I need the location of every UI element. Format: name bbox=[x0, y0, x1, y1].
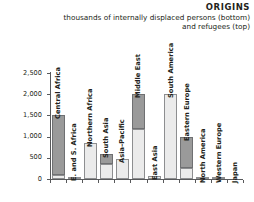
x-axis-category-label: Eastern Europe bbox=[184, 83, 191, 141]
y-axis-tick-label: 1,000 bbox=[16, 133, 42, 140]
plot-area: 05001,0001,5002,0002,500Central AfricaE.… bbox=[0, 0, 254, 202]
x-axis-tick bbox=[82, 180, 83, 183]
bar-northern-africa bbox=[84, 143, 97, 179]
bar-eastern-europe bbox=[180, 137, 193, 179]
x-axis-tick bbox=[243, 180, 244, 183]
bar-segment-idp bbox=[164, 94, 177, 179]
y-axis-tick-label: 1,500 bbox=[16, 112, 42, 119]
x-axis-tick bbox=[50, 180, 51, 183]
bar-central-africa bbox=[52, 115, 65, 179]
y-axis-tick bbox=[47, 94, 50, 95]
x-axis-tick bbox=[147, 180, 148, 183]
x-axis-tick bbox=[195, 180, 196, 183]
x-axis-tick bbox=[114, 180, 115, 183]
x-axis-category-label: North America bbox=[200, 128, 207, 183]
bar-segment-idp bbox=[180, 168, 193, 179]
y-axis-tick bbox=[47, 115, 50, 116]
x-axis-category-label: Middle East bbox=[135, 54, 142, 98]
x-axis-category-label: Northern Africa bbox=[87, 88, 94, 147]
x-axis-category-label: South America bbox=[168, 43, 175, 98]
x-axis-tick bbox=[98, 180, 99, 183]
bar-segment-idp bbox=[100, 164, 113, 179]
x-axis-category-label: Japan bbox=[232, 162, 239, 183]
chart-container: ORIGINS thousands of internally displace… bbox=[0, 0, 254, 202]
x-axis-category-label: East Asia bbox=[152, 145, 159, 180]
bar-south-america bbox=[164, 94, 177, 179]
x-axis-category-label: Asia–Pacific bbox=[119, 119, 126, 163]
bar-middle-east bbox=[132, 94, 145, 179]
y-axis-tick bbox=[47, 73, 50, 74]
bar-segment-idp bbox=[132, 129, 145, 179]
y-axis-tick-label: 500 bbox=[16, 154, 42, 161]
x-axis-tick bbox=[179, 180, 180, 183]
x-axis-tick bbox=[227, 180, 228, 183]
y-axis-tick bbox=[47, 158, 50, 159]
bar-segment-refugees bbox=[132, 94, 145, 129]
x-axis-tick bbox=[163, 180, 164, 183]
y-axis-tick bbox=[47, 137, 50, 138]
x-axis-tick bbox=[66, 180, 67, 183]
bar-segment-idp bbox=[84, 143, 97, 179]
x-axis-category-label: E. and S. Africa bbox=[71, 123, 78, 181]
y-axis-tick-label: 2,500 bbox=[16, 70, 42, 77]
x-axis-category-label: South Asia bbox=[103, 118, 110, 158]
bar-segment-refugees bbox=[180, 137, 193, 168]
x-axis-tick bbox=[130, 180, 131, 183]
x-axis-category-label: Western Europe bbox=[216, 122, 223, 182]
bar-segment-refugees bbox=[52, 115, 65, 174]
x-axis-tick bbox=[211, 180, 212, 183]
y-axis-tick-label: 0 bbox=[16, 176, 42, 183]
y-axis-tick-label: 2,000 bbox=[16, 91, 42, 98]
x-axis-category-label: Central Africa bbox=[55, 67, 62, 119]
bar-segment-idp bbox=[52, 175, 65, 179]
